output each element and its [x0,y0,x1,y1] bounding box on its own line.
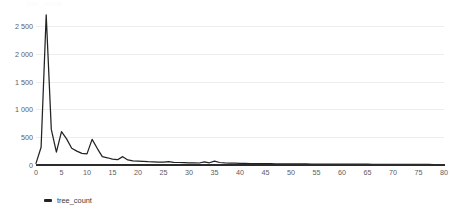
y-axis-tick-label: 1 500 [0,77,33,86]
x-axis-tick-label: 25 [160,168,168,177]
series-line-tree_count [36,15,444,165]
x-axis-line [36,164,445,166]
chart-container: tree_count 05001 0001 5002 0002 500 0510… [0,0,452,220]
plot-area [36,12,444,165]
x-axis-tick-label: 55 [313,168,321,177]
x-axis-tick-label: 65 [364,168,372,177]
legend: tree_count [44,196,92,205]
x-axis-tick-label: 80 [440,168,448,177]
series-layer [36,12,444,165]
x-axis-tick-label: 10 [83,168,91,177]
x-axis-tick-label: 20 [134,168,142,177]
x-axis-tick-label: 5 [60,168,64,177]
y-axis-tick-label: 2 500 [0,21,33,30]
legend-marker-icon [44,199,52,202]
x-axis-tick-labels: 05101520253035404550556065707580 [0,168,452,182]
x-axis-tick-label: 60 [338,168,346,177]
chart-title: tree_count [26,0,146,9]
x-axis-tick-label: 75 [415,168,423,177]
y-axis-tick-labels: 05001 0001 5002 0002 500 [0,0,33,180]
x-axis-tick-label: 70 [389,168,397,177]
x-axis-tick-label: 40 [236,168,244,177]
y-axis-tick-label: 2 000 [0,49,33,58]
x-axis-tick-label: 50 [287,168,295,177]
legend-item-label: tree_count [57,196,92,205]
x-axis-tick-label: 30 [185,168,193,177]
x-axis-tick-label: 35 [211,168,219,177]
y-axis-tick-label: 1 000 [0,105,33,114]
x-axis-tick-label: 15 [109,168,117,177]
x-axis-tick-label: 0 [34,168,38,177]
x-axis-tick-label: 45 [262,168,270,177]
y-axis-tick-label: 500 [0,133,33,142]
